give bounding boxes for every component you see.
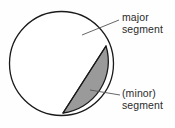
major-segment-label-line2: segment	[122, 24, 163, 36]
minor-segment-label-line1: (minor)	[122, 88, 163, 100]
major-segment-label-line1: major	[122, 12, 163, 24]
minor-segment-label-line2: segment	[122, 100, 163, 112]
circle-segment-diagram: major segment (minor) segment	[0, 0, 175, 128]
major-segment-label: major segment	[122, 12, 163, 35]
minor-segment-label: (minor) segment	[122, 88, 163, 111]
